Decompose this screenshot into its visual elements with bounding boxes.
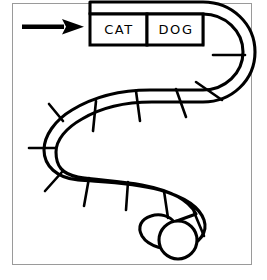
arrow-shaft — [22, 25, 64, 30]
space-label-cat: CAT — [92, 23, 146, 36]
space-label-dog: DOG — [149, 23, 203, 36]
arrow-head — [62, 19, 84, 35]
game-token[interactable] — [159, 221, 197, 259]
divider-space8-space9 — [49, 104, 63, 121]
divider-space13-space14 — [164, 191, 168, 218]
game-board-illustration — [0, 0, 267, 280]
start-direction-arrow — [22, 19, 84, 35]
divider-space10-space11 — [45, 172, 62, 191]
divider-space12-space13 — [126, 182, 128, 210]
worksheet-page: CAT DOG — [0, 0, 267, 280]
